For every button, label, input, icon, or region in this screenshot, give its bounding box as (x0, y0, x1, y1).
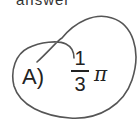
fraction-denominator: 3 (70, 74, 90, 94)
choice-letter: A) (22, 64, 44, 90)
pi-symbol: π (94, 62, 107, 86)
fraction: 1 3 (70, 48, 90, 94)
fraction-bar (71, 70, 89, 72)
fraction-numerator: 1 (70, 48, 90, 68)
scanned-answer-fragment: answer A) 1 3 π (0, 0, 140, 123)
